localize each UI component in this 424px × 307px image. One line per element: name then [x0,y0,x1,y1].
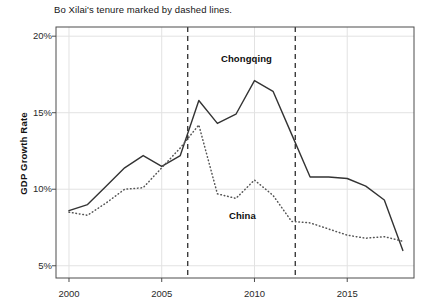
series-label-china: China [229,210,256,221]
x-tick-label: 2010 [229,288,279,299]
series-label-chongqing: Chongqing [221,53,272,64]
x-tick-label: 2015 [322,288,372,299]
y-tick-label: 20% [12,30,52,41]
plot-area [0,0,424,307]
gridlines [56,27,414,278]
y-tick-label: 15% [12,107,52,118]
y-tick-label: 10% [12,183,52,194]
x-tick-label: 2000 [44,288,94,299]
x-tick-label: 2005 [137,288,187,299]
data-series-group [69,81,403,251]
chart-figure: Bo Xilai's tenure marked by dashed lines… [0,0,424,307]
tenure-marker-lines [188,27,296,278]
y-tick-label: 5% [12,260,52,271]
plot-frame [56,27,414,278]
